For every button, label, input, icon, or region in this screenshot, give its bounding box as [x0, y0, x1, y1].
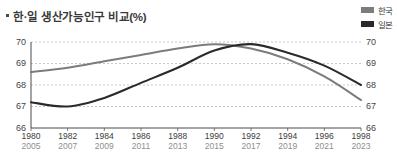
x-tick-label: 19882013 — [168, 131, 187, 151]
x-tick-label: 19862011 — [132, 131, 151, 151]
x-tick-japan: 2019 — [278, 141, 297, 151]
x-tick-korea: 1990 — [205, 131, 224, 141]
chart-title: 한·일 생산가능인구 비교(%) — [6, 8, 146, 24]
series-line-korea — [31, 44, 361, 100]
x-tick-japan: 2015 — [205, 141, 224, 151]
x-tick-japan: 2007 — [58, 141, 77, 151]
x-tick-korea: 1998 — [352, 131, 371, 141]
x-tick-label: 19802005 — [22, 131, 41, 151]
x-tick-japan: 2011 — [132, 141, 151, 151]
x-tick-label: 19982023 — [352, 131, 371, 151]
x-tick-korea: 1996 — [315, 131, 334, 141]
y-tick-label: 67 — [16, 102, 26, 111]
x-tick-label: 19922017 — [242, 131, 261, 151]
series-line-japan — [31, 44, 361, 106]
legend-label-korea: 한국 — [378, 4, 393, 16]
x-tick-label: 19962021 — [315, 131, 334, 151]
x-tick-korea: 1984 — [95, 131, 114, 141]
chart-figure: 한·일 생산가능인구 비교(%) 한국 일본 7069686766 706968… — [0, 0, 397, 159]
x-tick-japan: 2009 — [95, 141, 114, 151]
x-axis-labels: 1980200519822007198420091986201119882013… — [31, 131, 361, 157]
y-tick-label-right: 68 — [366, 81, 376, 90]
x-tick-korea: 1992 — [242, 131, 261, 141]
x-tick-korea: 1988 — [168, 131, 187, 141]
legend-item-korea: 한국 — [361, 4, 393, 16]
legend-swatch-korea — [361, 7, 374, 13]
x-tick-label: 19942019 — [278, 131, 297, 151]
chart-legend: 한국 일본 — [361, 4, 393, 30]
x-tick-japan: 2023 — [352, 141, 371, 151]
y-tick-label: 68 — [16, 81, 26, 90]
legend-swatch-japan — [361, 21, 374, 27]
x-tick-label: 19902015 — [205, 131, 224, 151]
plot-area: 7069686766 7069686766 — [31, 42, 361, 128]
y-tick-label-right: 69 — [366, 59, 376, 68]
x-tick-label: 19842009 — [95, 131, 114, 151]
y-tick-label: 70 — [16, 38, 26, 47]
y-tick-label-right: 70 — [366, 38, 376, 47]
x-tick-korea: 1986 — [132, 131, 151, 141]
y-tick-label-right: 67 — [366, 102, 376, 111]
x-tick-japan: 2005 — [22, 141, 41, 151]
x-tick-korea: 1980 — [22, 131, 41, 141]
bullet-icon — [6, 14, 9, 17]
page-title: 한·일 생산가능인구 비교(%) — [13, 8, 146, 24]
legend-item-japan: 일본 — [361, 18, 393, 30]
x-tick-japan: 2013 — [168, 141, 187, 151]
y-tick-label: 69 — [16, 59, 26, 68]
x-tick-korea: 1982 — [58, 131, 77, 141]
legend-label-japan: 일본 — [378, 18, 393, 30]
x-tick-japan: 2017 — [242, 141, 261, 151]
x-tick-korea: 1994 — [278, 131, 297, 141]
chart-canvas — [31, 42, 361, 128]
x-tick-japan: 2021 — [315, 141, 334, 151]
x-tick-label: 19822007 — [58, 131, 77, 151]
